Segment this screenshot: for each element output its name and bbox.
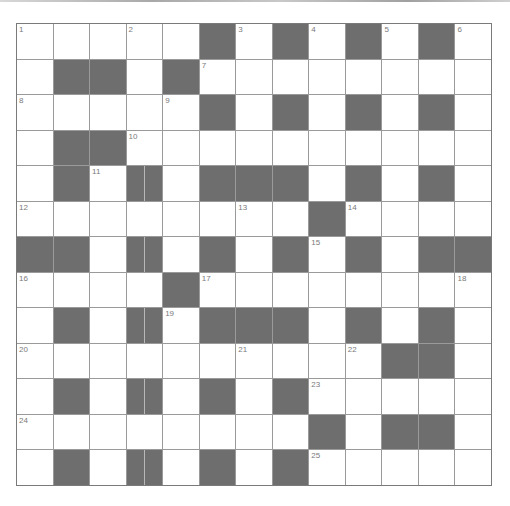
grid-cell[interactable]: [419, 379, 455, 414]
grid-cell[interactable]: [163, 344, 199, 379]
grid-cell[interactable]: [455, 166, 491, 201]
grid-cell[interactable]: [382, 379, 418, 414]
grid-cell[interactable]: 24: [17, 415, 53, 450]
grid-cell[interactable]: 23: [309, 379, 345, 414]
grid-cell[interactable]: 25: [309, 450, 345, 485]
grid-cell[interactable]: [419, 273, 455, 308]
grid-cell[interactable]: [200, 415, 236, 450]
grid-cell[interactable]: 15: [309, 237, 345, 272]
grid-cell[interactable]: [309, 308, 345, 343]
grid-cell[interactable]: [455, 95, 491, 130]
grid-cell[interactable]: 14: [346, 202, 382, 237]
grid-cell[interactable]: [54, 95, 90, 130]
grid-cell[interactable]: [90, 95, 126, 130]
grid-cell[interactable]: [455, 344, 491, 379]
grid-cell[interactable]: [382, 60, 418, 95]
grid-cell[interactable]: [382, 166, 418, 201]
grid-cell[interactable]: 20: [17, 344, 53, 379]
grid-cell[interactable]: 4: [309, 24, 345, 59]
grid-cell[interactable]: 16: [17, 273, 53, 308]
grid-cell[interactable]: [127, 60, 163, 95]
grid-cell[interactable]: [455, 450, 491, 485]
grid-cell[interactable]: [382, 95, 418, 130]
grid-cell[interactable]: [346, 450, 382, 485]
grid-cell[interactable]: [382, 131, 418, 166]
grid-cell[interactable]: [419, 450, 455, 485]
grid-cell[interactable]: [163, 379, 199, 414]
grid-cell[interactable]: [273, 344, 309, 379]
grid-cell[interactable]: [455, 202, 491, 237]
grid-cell[interactable]: [419, 60, 455, 95]
grid-cell[interactable]: 8: [17, 95, 53, 130]
grid-cell[interactable]: [17, 131, 53, 166]
grid-cell[interactable]: [236, 415, 272, 450]
grid-cell[interactable]: [382, 273, 418, 308]
grid-cell[interactable]: [90, 237, 126, 272]
grid-cell[interactable]: 12: [17, 202, 53, 237]
grid-cell[interactable]: [346, 273, 382, 308]
grid-cell[interactable]: [90, 308, 126, 343]
grid-cell[interactable]: [54, 202, 90, 237]
grid-cell[interactable]: [17, 450, 53, 485]
grid-cell[interactable]: 7: [200, 60, 236, 95]
grid-cell[interactable]: [54, 344, 90, 379]
grid-cell[interactable]: 17: [200, 273, 236, 308]
grid-cell[interactable]: [236, 273, 272, 308]
grid-cell[interactable]: [455, 379, 491, 414]
grid-cell[interactable]: [54, 24, 90, 59]
grid-cell[interactable]: [382, 202, 418, 237]
grid-cell[interactable]: [309, 95, 345, 130]
grid-cell[interactable]: 21: [236, 344, 272, 379]
grid-cell[interactable]: [309, 344, 345, 379]
grid-cell[interactable]: [163, 24, 199, 59]
grid-cell[interactable]: [382, 308, 418, 343]
grid-cell[interactable]: [236, 60, 272, 95]
grid-cell[interactable]: [236, 379, 272, 414]
grid-cell[interactable]: 9: [163, 95, 199, 130]
grid-cell[interactable]: [273, 202, 309, 237]
grid-cell[interactable]: 18: [455, 273, 491, 308]
grid-cell[interactable]: [309, 131, 345, 166]
grid-cell[interactable]: [54, 273, 90, 308]
grid-cell[interactable]: [90, 273, 126, 308]
grid-cell[interactable]: 10: [127, 131, 163, 166]
grid-cell[interactable]: [127, 415, 163, 450]
grid-cell[interactable]: [236, 95, 272, 130]
grid-cell[interactable]: 6: [455, 24, 491, 59]
grid-cell[interactable]: [382, 237, 418, 272]
grid-cell[interactable]: [273, 60, 309, 95]
grid-cell[interactable]: [163, 131, 199, 166]
grid-cell[interactable]: [382, 450, 418, 485]
grid-cell[interactable]: [346, 60, 382, 95]
grid-cell[interactable]: [346, 131, 382, 166]
grid-cell[interactable]: [17, 379, 53, 414]
grid-cell[interactable]: [273, 131, 309, 166]
grid-cell[interactable]: [163, 166, 199, 201]
grid-cell[interactable]: [455, 415, 491, 450]
grid-cell[interactable]: 11: [90, 166, 126, 201]
grid-cell[interactable]: [309, 60, 345, 95]
grid-cell[interactable]: [419, 131, 455, 166]
grid-cell[interactable]: [455, 308, 491, 343]
grid-cell[interactable]: [90, 24, 126, 59]
grid-cell[interactable]: 2: [127, 24, 163, 59]
grid-cell[interactable]: [455, 60, 491, 95]
grid-cell[interactable]: [309, 273, 345, 308]
grid-cell[interactable]: 22: [346, 344, 382, 379]
grid-cell[interactable]: [127, 95, 163, 130]
grid-cell[interactable]: [163, 237, 199, 272]
grid-cell[interactable]: [90, 379, 126, 414]
grid-cell[interactable]: [309, 166, 345, 201]
grid-cell[interactable]: [163, 450, 199, 485]
grid-cell[interactable]: [419, 202, 455, 237]
grid-cell[interactable]: [17, 308, 53, 343]
grid-cell[interactable]: [90, 450, 126, 485]
grid-cell[interactable]: [346, 415, 382, 450]
grid-cell[interactable]: [17, 166, 53, 201]
grid-cell[interactable]: [200, 131, 236, 166]
grid-cell[interactable]: 3: [236, 24, 272, 59]
grid-cell[interactable]: [90, 415, 126, 450]
grid-cell[interactable]: [90, 202, 126, 237]
grid-cell[interactable]: [54, 415, 90, 450]
grid-cell[interactable]: [127, 202, 163, 237]
